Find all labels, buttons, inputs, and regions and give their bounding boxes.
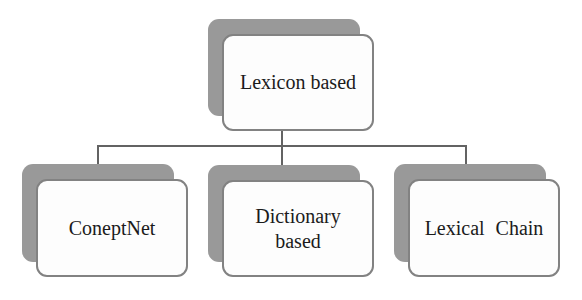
node-dictionary-based-label-line2: based	[275, 229, 321, 254]
node-lexicon-based: Lexicon based	[222, 34, 374, 131]
connector-horizontal-rail	[97, 145, 467, 147]
node-lexical-chain-label: Lexical Chain	[425, 216, 544, 241]
node-coneptnet-label: ConeptNet	[69, 216, 156, 241]
node-lexicon-based-label: Lexicon based	[240, 70, 356, 95]
node-coneptnet-card: ConeptNet	[36, 179, 188, 277]
node-lexicon-based-card: Lexicon based	[222, 34, 374, 131]
node-dictionary-based-card: Dictionary based	[222, 180, 374, 277]
node-dictionary-based: Dictionary based	[222, 180, 374, 277]
connector-right-drop	[465, 145, 467, 165]
connector-left-drop	[97, 145, 99, 165]
lexicon-hierarchy-diagram: Lexicon based ConeptNet Dictionary based…	[0, 0, 582, 300]
node-coneptnet: ConeptNet	[36, 179, 188, 277]
connector-root-stem	[281, 131, 283, 167]
node-lexical-chain-card: Lexical Chain	[408, 179, 560, 277]
node-lexical-chain: Lexical Chain	[408, 179, 560, 277]
node-dictionary-based-label-line1: Dictionary	[255, 204, 341, 229]
